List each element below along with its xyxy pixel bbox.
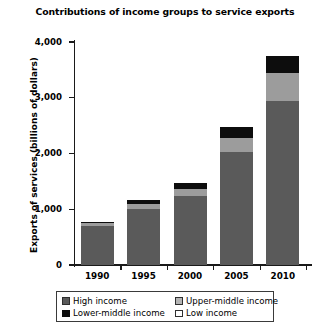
lower-middle-income-swatch: [62, 310, 70, 318]
chart-figure: Contributions of income groups to servic…: [0, 0, 330, 333]
bar-segment-high-income: [266, 101, 299, 265]
bar-segment-upper-middle-income: [81, 223, 114, 226]
bar-segment-high-income: [220, 152, 253, 265]
bar-segment-upper-middle-income: [174, 189, 207, 196]
x-axis-tick-label: 1995: [121, 271, 167, 281]
legend-label: Lower-middle income: [73, 308, 165, 318]
bar-2010: [266, 42, 299, 265]
legend-entry-upper-middle-income: Upper-middle income: [175, 296, 278, 306]
bar-segment-high-income: [81, 226, 114, 265]
y-axis-tick-label: 3,000: [0, 92, 62, 102]
x-axis-tick: [306, 265, 307, 270]
chart-title: Contributions of income groups to servic…: [0, 6, 330, 17]
chart-legend: High income Upper-middle income Lower-mi…: [56, 291, 274, 322]
y-axis-tick-label: 4,000: [0, 37, 62, 47]
low-income-swatch: [175, 310, 183, 318]
bar-segment-upper-middle-income: [127, 204, 160, 209]
bar-1990: [81, 42, 114, 265]
bar-segment-lower-middle-income: [174, 183, 207, 189]
y-axis-tick-label: 1,000: [0, 204, 62, 214]
x-axis-tick-label: 2000: [167, 271, 213, 281]
bar-segment-upper-middle-income: [266, 73, 299, 101]
x-axis-tick: [120, 265, 121, 270]
y-axis-tick-label: 2,000: [0, 148, 62, 158]
x-axis-tick-label: 1990: [74, 271, 120, 281]
y-axis-tick-label: 0: [0, 260, 62, 270]
legend-row: Lower-middle income Low income: [62, 307, 269, 320]
x-axis-tick: [260, 265, 261, 270]
bar-1995: [127, 42, 160, 265]
legend-label: High income: [73, 296, 127, 306]
bar-segment-lower-middle-income: [81, 222, 114, 224]
bar-segment-high-income: [174, 196, 207, 265]
legend-label: Upper-middle income: [186, 296, 278, 306]
x-axis-tick-label: 2005: [213, 271, 259, 281]
bar-2000: [174, 42, 207, 265]
high-income-swatch: [62, 297, 70, 305]
legend-label: Low income: [186, 308, 237, 318]
upper-middle-income-swatch: [175, 297, 183, 305]
x-axis-tick: [167, 265, 168, 270]
bar-segment-high-income: [127, 209, 160, 265]
bar-segment-lower-middle-income: [127, 200, 160, 204]
x-axis-tick: [213, 265, 214, 270]
legend-entry-low-income: Low income: [175, 308, 269, 318]
bar-segment-lower-middle-income: [220, 127, 253, 138]
legend-entry-high-income: High income: [62, 296, 175, 306]
bar-segment-lower-middle-income: [266, 56, 299, 73]
x-axis-tick-label: 2010: [260, 271, 306, 281]
legend-row: High income Upper-middle income: [62, 295, 269, 308]
bar-segment-upper-middle-income: [220, 138, 253, 152]
plot-area: [74, 42, 306, 265]
bar-2005: [220, 42, 253, 265]
legend-entry-lower-middle-income: Lower-middle income: [62, 308, 175, 318]
